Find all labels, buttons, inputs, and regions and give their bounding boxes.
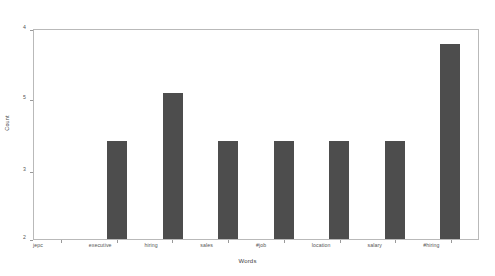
x-tick-label: executive <box>89 243 96 248</box>
x-tick-wrap: jepc <box>33 243 89 248</box>
x-axis-title: Words <box>0 258 495 264</box>
x-tick-mark <box>228 240 229 243</box>
x-tick-wrap: location <box>312 243 368 248</box>
x-tick-label: location <box>312 243 319 248</box>
bar-slot <box>312 30 368 239</box>
bar[interactable] <box>440 44 460 239</box>
x-tick-label: sales <box>200 243 207 248</box>
bar[interactable] <box>274 141 294 239</box>
bar-slot <box>201 30 257 239</box>
x-tick-label: hiring <box>145 243 152 248</box>
x-tick-label: #job <box>256 243 263 248</box>
x-tick-mark <box>172 240 173 243</box>
x-tick-mark <box>117 240 118 243</box>
y-axis-title: Count <box>4 115 10 130</box>
bar[interactable] <box>385 141 405 239</box>
x-tick-label: jepc <box>33 243 40 248</box>
bar-slot <box>145 30 201 239</box>
bar[interactable] <box>329 141 349 239</box>
bar-slot <box>367 30 423 239</box>
bar-chart-figure: 4 5 3 2 Count jepc execut <box>0 0 495 276</box>
x-axis-tick-labels: jepc executive hiring sales #job locatio… <box>33 243 479 248</box>
x-tick-label: #hiring <box>423 243 430 248</box>
bar-slot <box>256 30 312 239</box>
bar-slot <box>34 30 90 239</box>
x-tick-wrap: sales <box>200 243 256 248</box>
y-tick-label: 4 <box>23 25 26 30</box>
bar[interactable] <box>218 141 238 239</box>
x-tick-mark <box>395 240 396 243</box>
x-tick-mark <box>340 240 341 243</box>
plot-area <box>33 29 479 240</box>
bar-slot <box>423 30 479 239</box>
x-tick-wrap: executive <box>89 243 145 248</box>
x-tick-wrap: hiring <box>145 243 201 248</box>
bar-series <box>34 30 478 239</box>
bar[interactable] <box>163 93 183 240</box>
x-tick-label: salary <box>368 243 375 248</box>
x-tick-wrap: #hiring <box>423 243 479 248</box>
y-tick-label: 5 <box>23 95 26 100</box>
bar-slot <box>90 30 146 239</box>
x-tick-mark <box>61 240 62 243</box>
x-tick-mark <box>451 240 452 243</box>
bar[interactable] <box>107 141 127 239</box>
x-tick-mark <box>284 240 285 243</box>
x-tick-wrap: #job <box>256 243 312 248</box>
y-tick-label: 2 <box>23 235 26 240</box>
y-tick-label: 3 <box>23 167 26 172</box>
x-tick-wrap: salary <box>368 243 424 248</box>
